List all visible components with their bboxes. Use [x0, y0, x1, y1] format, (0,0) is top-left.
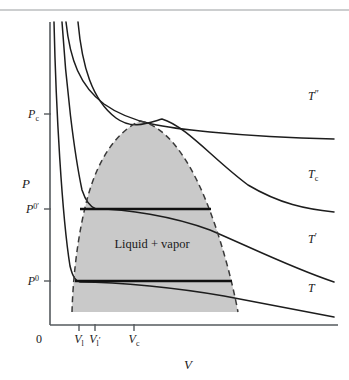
y-tick-label-Pc: Pc [27, 107, 39, 123]
y-tick-label-sub-Pc: c [35, 114, 39, 123]
x-tick-label-Vl: Vl [74, 332, 84, 348]
x-tick-label-prime-Vlp: ′ [99, 335, 101, 345]
y-tick-label-P0: P0 [27, 274, 39, 288]
pv-phase-diagram-figure: PcP0′P0VlVl′Vc0PVT″TcT′TLiquid + vapor [0, 0, 349, 380]
y-axis-label: P [21, 176, 30, 191]
chart-canvas: PcP0′P0VlVl′Vc0PVT″TcT′TLiquid + vapor [0, 0, 349, 380]
isotherm-label-base-T: T [308, 281, 316, 295]
isotherm-label-T: T [308, 281, 316, 295]
isotherm-label-Tc: Tc [308, 167, 319, 183]
isotherm-label-prime-Tprime: ′ [315, 231, 317, 242]
isotherm-label-Tprime: T′ [308, 231, 317, 246]
isotherm-label-prime-T2prime: ″ [315, 88, 319, 99]
y-tick-label-sup-P0p: 0′ [33, 202, 39, 211]
origin-label: 0 [36, 332, 42, 346]
x-tick-label-sub-Vl: l [82, 339, 85, 348]
isotherm-curve-T2prime [66, 22, 334, 139]
x-axis-label: V [184, 357, 194, 372]
x-tick-label-Vc: Vc [129, 332, 140, 348]
isotherm-label-T2prime: T″ [308, 88, 319, 103]
two-phase-region-label: Liquid + vapor [114, 237, 190, 251]
x-tick-label-Vlp: Vl′ [89, 332, 101, 348]
y-tick-label-P0p: P0′ [25, 202, 39, 216]
x-tick-label-sub-Vc: c [136, 339, 140, 348]
y-tick-label-sup-P0: 0 [35, 274, 39, 283]
two-phase-region-fill [72, 121, 238, 312]
isotherm-label-sub-Tc: c [315, 174, 319, 183]
